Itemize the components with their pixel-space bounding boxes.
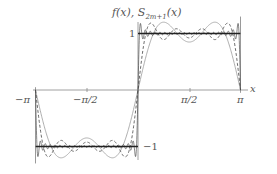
y-tick-label-one: 1 — [129, 29, 135, 39]
chart-plot — [0, 0, 277, 174]
y-tick-label-neg-one: −1 — [143, 142, 158, 152]
x-tick-label-neg-pi: −π — [15, 95, 30, 105]
x-axis-label: x — [250, 84, 256, 94]
x-tick-label-pi: π — [237, 95, 244, 105]
x-tick-label-neg-half-pi: −π/2 — [73, 95, 98, 105]
axes — [33, 22, 248, 160]
x-tick-label-half-pi: π/2 — [181, 95, 197, 105]
y-axis-title: f(x), S2m+1(x) — [112, 7, 182, 21]
